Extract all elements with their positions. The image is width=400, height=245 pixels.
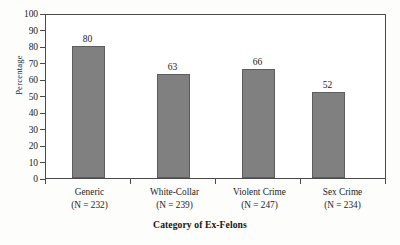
x-category-count: (N = 234) <box>300 199 385 212</box>
bar-violent-crime <box>242 69 275 178</box>
bar-generic <box>72 46 105 178</box>
x-category-count: (N = 247) <box>217 199 302 212</box>
x-axis-title: Category of Ex-Felons <box>0 219 400 230</box>
y-tick-label: 90 <box>29 23 38 39</box>
bar-white-collar <box>157 74 190 178</box>
bar-value-white-collar: 63 <box>156 62 189 72</box>
x-tick-mark <box>45 179 46 184</box>
y-tick-label: 60 <box>29 72 38 88</box>
x-category-count: (N = 232) <box>47 199 132 212</box>
x-tick-mark <box>215 179 216 184</box>
y-tick-label: 50 <box>29 89 38 105</box>
bar-value-violent-crime: 66 <box>241 57 274 67</box>
bar-chart-figure: 100 90 80 70 60 50 40 30 <box>0 0 400 245</box>
x-category-name: White-Collar <box>150 187 199 197</box>
y-tick-label: 20 <box>29 138 38 154</box>
y-axis-title: Percentage <box>14 30 24 120</box>
y-tick-label: 0 <box>33 171 38 187</box>
x-tick-mark <box>385 179 386 184</box>
y-tick-label: 80 <box>29 39 38 55</box>
bar-value-sex-crime: 52 <box>311 80 344 90</box>
bar-value-generic: 80 <box>71 34 104 44</box>
y-tick-label: 100 <box>24 6 38 22</box>
y-tick-label: 30 <box>29 122 38 138</box>
x-category-name: Violent Crime <box>233 187 286 197</box>
x-category-generic: Generic (N = 232) <box>47 186 132 211</box>
y-tick-label: 70 <box>29 56 38 72</box>
y-tick-label: 40 <box>29 105 38 121</box>
x-tick-mark <box>130 179 131 184</box>
y-tick-label: 10 <box>29 155 38 171</box>
x-category-count: (N = 239) <box>132 199 217 212</box>
x-category-name: Generic <box>75 187 104 197</box>
x-category-sex-crime: Sex Crime (N = 234) <box>300 186 385 211</box>
bar-sex-crime <box>312 92 345 178</box>
x-category-white-collar: White-Collar (N = 239) <box>132 186 217 211</box>
x-tick-mark <box>300 179 301 184</box>
x-category-violent-crime: Violent Crime (N = 247) <box>217 186 302 211</box>
x-category-name: Sex Crime <box>323 187 363 197</box>
